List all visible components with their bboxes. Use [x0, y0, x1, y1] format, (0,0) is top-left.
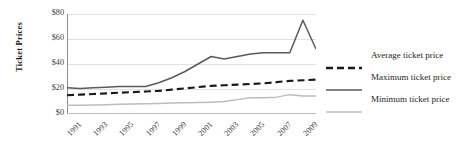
legend-label: Maximum ticket price: [371, 72, 451, 82]
chart-legend: Average ticket priceMaximum ticket price…: [326, 47, 474, 113]
legend-item[interactable]: Maximum ticket price: [326, 69, 474, 91]
y-axis-tick-label: $80: [30, 9, 64, 17]
legend-line-glyph: [326, 109, 362, 115]
chart-figure: Ticket Prices $0$20$40$60$80 19911993199…: [0, 0, 474, 160]
y-axis-tick-label: $20: [30, 84, 64, 92]
chart-svg: [67, 14, 316, 114]
legend-label: Average ticket price: [371, 50, 443, 60]
y-axis-tick-labels: $0$20$40$60$80: [26, 0, 64, 160]
y-axis-tick-label: $60: [30, 34, 64, 42]
legend-item[interactable]: Minimum ticket price: [326, 91, 474, 113]
legend-item[interactable]: Average ticket price: [326, 47, 474, 69]
y-axis-tick-label: $40: [30, 59, 64, 67]
series-line-3: [67, 95, 316, 106]
y-axis-tick-label: $0: [30, 109, 64, 117]
legend-label: Minimum ticket price: [371, 94, 449, 104]
series-line-2: [67, 20, 316, 88]
x-axis-tick-labels: 1991199319951997199920012003200520072009: [67, 114, 316, 160]
y-axis-title: Ticket Prices: [14, 2, 24, 92]
plot-area: [67, 14, 316, 114]
